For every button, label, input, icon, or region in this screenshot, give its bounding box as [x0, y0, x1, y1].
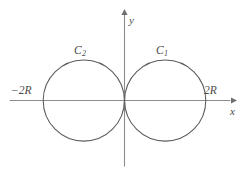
- curve-label-c1-subscript: 1: [164, 49, 168, 58]
- tick-label-2r: 2R: [204, 85, 217, 97]
- curve-label-c2-name: C: [74, 44, 82, 56]
- tick-label-minus-2r: −2R: [11, 85, 32, 97]
- figure-container: y x C2 C1 −2R 2R: [0, 0, 249, 174]
- y-axis-label: y: [129, 15, 134, 26]
- curve-label-c2: C2: [74, 45, 86, 57]
- curve-label-c1-name: C: [156, 44, 164, 56]
- y-axis-arrowhead: [121, 9, 127, 15]
- x-axis-arrowhead: [231, 97, 237, 103]
- curve-label-c2-subscript: 2: [82, 49, 86, 58]
- x-axis-label: x: [230, 106, 235, 117]
- curve-label-c1: C1: [156, 45, 168, 57]
